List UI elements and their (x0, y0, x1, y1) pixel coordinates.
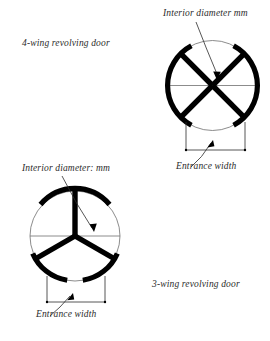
diagram-sheet: 4-wing revolving door 3-wing revolving d… (0, 0, 270, 341)
four-wing-door-figure (168, 22, 258, 167)
three-wing-vane-lower-right (75, 236, 114, 259)
three-wing-dimension-tick-right (104, 301, 106, 303)
entrance-width-label-bottom: Entrance width (36, 309, 96, 320)
four-wing-entrance-width-arrowhead (207, 140, 214, 148)
four-wing-vane-se (213, 86, 245, 118)
four-wing-dimension-tick-left (185, 149, 187, 151)
four-wing-vane-sw (181, 86, 213, 118)
three-wing-door-caption: 3-wing revolving door (152, 279, 240, 290)
three-wing-door-figure (30, 176, 120, 316)
four-wing-vane-nw (181, 54, 213, 86)
three-wing-diameter-leader-arrowhead (90, 223, 97, 232)
three-wing-entrance-width-arrowhead (67, 293, 74, 300)
four-wing-door-caption: 4-wing revolving door (22, 38, 110, 49)
entrance-width-label-top: Entrance width (176, 161, 236, 172)
four-wing-dimension-tick-right (244, 149, 246, 151)
interior-diameter-label-top: Interior diameter mm (163, 8, 248, 19)
four-wing-diameter-leader (196, 22, 217, 74)
three-wing-dimension-tick-left (46, 301, 48, 303)
interior-diameter-label-bottom: Interior diameter: mm (22, 163, 110, 174)
three-wing-vane-lower-left (36, 236, 75, 259)
four-wing-vane-ne (213, 54, 245, 86)
